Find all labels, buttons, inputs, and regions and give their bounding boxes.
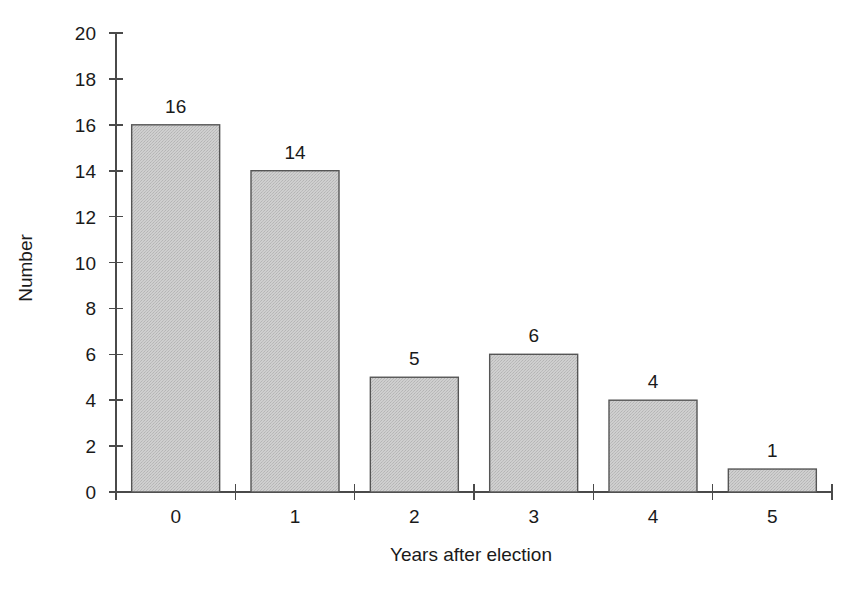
x-tick-label: 3 xyxy=(528,506,539,527)
bar-value-label: 1 xyxy=(767,440,778,461)
x-tick-label: 2 xyxy=(409,506,420,527)
x-tick-label: 5 xyxy=(767,506,778,527)
y-tick-label: 16 xyxy=(75,115,96,136)
bar-value-label: 14 xyxy=(284,142,306,163)
bar xyxy=(132,125,220,492)
y-tick-label: 8 xyxy=(85,298,96,319)
bar-value-label: 16 xyxy=(165,96,186,117)
bar-value-label: 4 xyxy=(648,371,659,392)
x-tick-label: 4 xyxy=(648,506,659,527)
bar xyxy=(490,354,578,492)
y-tick-label: 2 xyxy=(85,436,96,457)
bar-value-label: 5 xyxy=(409,348,420,369)
y-tick-label: 14 xyxy=(75,161,97,182)
y-tick-label: 12 xyxy=(75,207,96,228)
x-tick-label: 1 xyxy=(290,506,301,527)
y-tick-label: 4 xyxy=(85,390,96,411)
bar xyxy=(728,469,816,492)
y-tick-label: 10 xyxy=(75,253,96,274)
y-tick-label: 6 xyxy=(85,344,96,365)
x-axis-title: Years after election xyxy=(390,544,552,565)
bar-chart: 02468101214161820 012345 16145641 Number… xyxy=(0,0,854,597)
x-tick-label: 0 xyxy=(170,506,181,527)
y-tick-label: 18 xyxy=(75,69,96,90)
y-axis-title: Number xyxy=(15,234,36,302)
bar xyxy=(609,400,697,492)
y-tick-label: 0 xyxy=(85,482,96,503)
chart-canvas: 02468101214161820 012345 16145641 Number… xyxy=(0,0,854,597)
bar xyxy=(370,377,458,492)
y-tick-label: 20 xyxy=(75,23,96,44)
chart-background xyxy=(0,0,854,597)
bar-value-label: 6 xyxy=(528,325,539,346)
bar xyxy=(251,171,339,492)
